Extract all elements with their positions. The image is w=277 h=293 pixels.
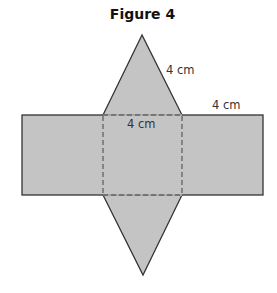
- net-diagram: [0, 0, 277, 293]
- bottom-triangle: [103, 195, 182, 275]
- slant-edge-label: 4 cm: [166, 63, 195, 77]
- rect-edge-label: 4 cm: [212, 98, 241, 112]
- square-edge-label: 4 cm: [127, 117, 156, 131]
